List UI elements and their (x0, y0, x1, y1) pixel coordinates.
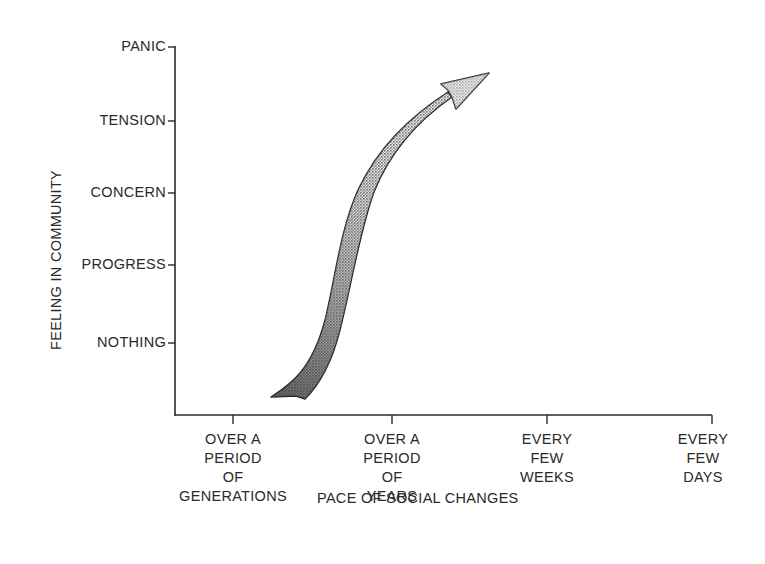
arrow-body (271, 92, 452, 399)
y-label-nothing: NOTHING (16, 334, 166, 350)
y-axis-title: FEELING IN COMMUNITY (48, 170, 64, 350)
x-label-generations: OVER A PERIOD OF GENERATIONS (153, 430, 313, 506)
x-axis-title: PACE OF SOCIAL CHANGES (317, 490, 519, 506)
y-label-tension: TENSION (16, 112, 166, 128)
x-label-days: EVERY FEW DAYS (623, 430, 765, 487)
trend-arrow (271, 73, 489, 399)
y-label-panic: PANIC (16, 38, 166, 54)
chart-figure: PANIC TENSION CONCERN PROGRESS NOTHING F… (0, 0, 765, 564)
y-label-concern: CONCERN (16, 184, 166, 200)
x-axis (175, 415, 712, 424)
y-axis (168, 46, 175, 416)
x-label-weeks: EVERY FEW WEEKS (467, 430, 627, 487)
y-label-progress: PROGRESS (16, 256, 166, 272)
